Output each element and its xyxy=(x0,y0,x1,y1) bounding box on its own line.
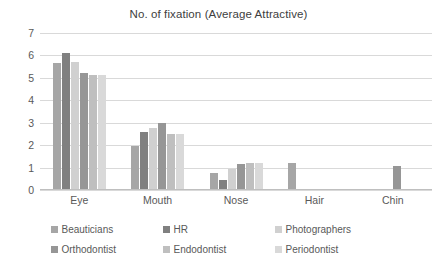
y-tick-label: 3 xyxy=(28,117,34,128)
bar-group xyxy=(197,33,275,190)
x-axis-category-labels: EyeMouthNoseHairChin xyxy=(40,194,432,206)
bar-group xyxy=(275,33,353,190)
plot-area xyxy=(40,33,432,190)
y-tick-label: 0 xyxy=(28,185,34,196)
legend-label: Photographers xyxy=(286,224,352,235)
legend-item[interactable]: Orthodontist xyxy=(51,244,163,255)
legend-label: Endodontist xyxy=(174,244,227,255)
legend-swatch-icon xyxy=(163,246,170,253)
bar[interactable] xyxy=(237,164,245,190)
chart-container: No. of fixation (Average Attractive) 012… xyxy=(0,0,437,277)
legend-item[interactable]: Photographers xyxy=(275,224,387,235)
legend-swatch-icon xyxy=(275,226,282,233)
bar[interactable] xyxy=(131,146,139,190)
bar[interactable] xyxy=(228,169,236,190)
bar-group xyxy=(354,33,432,190)
legend-row: BeauticiansHRPhotographers xyxy=(0,219,437,239)
y-tick-label: 2 xyxy=(28,140,34,151)
bar[interactable] xyxy=(149,128,157,190)
x-axis-line xyxy=(40,189,432,190)
legend-swatch-icon xyxy=(275,246,282,253)
bar[interactable] xyxy=(71,62,79,190)
y-axis-tick-labels: 01234567 xyxy=(0,33,34,190)
gridline xyxy=(40,190,432,191)
bar[interactable] xyxy=(167,134,175,190)
chart-legend: BeauticiansHRPhotographersOrthodontistEn… xyxy=(0,219,437,259)
legend-item[interactable]: Endodontist xyxy=(163,244,275,255)
bar[interactable] xyxy=(80,73,88,190)
legend-item[interactable]: HR xyxy=(163,224,275,235)
legend-label: Periodontist xyxy=(286,244,339,255)
bar[interactable] xyxy=(393,166,401,190)
bar-groups xyxy=(40,33,432,190)
bar[interactable] xyxy=(288,163,296,190)
bar[interactable] xyxy=(140,132,148,190)
bar[interactable] xyxy=(62,53,70,190)
y-tick-label: 5 xyxy=(28,73,34,84)
x-tick-label: Mouth xyxy=(118,194,196,206)
bar[interactable] xyxy=(158,123,166,190)
y-tick-label: 1 xyxy=(28,162,34,173)
legend-swatch-icon xyxy=(51,226,58,233)
x-tick-label: Eye xyxy=(40,194,118,206)
bar[interactable] xyxy=(176,134,184,190)
y-tick-label: 7 xyxy=(28,28,34,39)
x-tick-label: Chin xyxy=(354,194,432,206)
legend-row: OrthodontistEndodontistPeriodontist xyxy=(0,239,437,259)
chart-title: No. of fixation (Average Attractive) xyxy=(0,8,437,20)
legend-swatch-icon xyxy=(51,246,58,253)
bar[interactable] xyxy=(89,75,97,191)
bar[interactable] xyxy=(255,163,263,190)
legend-item[interactable]: Periodontist xyxy=(275,244,387,255)
y-tick-label: 4 xyxy=(28,95,34,106)
legend-item[interactable]: Beauticians xyxy=(51,224,163,235)
x-tick-label: Nose xyxy=(197,194,275,206)
legend-label: Beauticians xyxy=(62,224,114,235)
legend-label: HR xyxy=(174,224,188,235)
legend-label: Orthodontist xyxy=(62,244,116,255)
bar[interactable] xyxy=(98,75,106,191)
bar[interactable] xyxy=(210,173,218,190)
bar[interactable] xyxy=(246,163,254,190)
bar[interactable] xyxy=(53,63,61,190)
bar-group xyxy=(118,33,196,190)
x-tick-label: Hair xyxy=(275,194,353,206)
legend-swatch-icon xyxy=(163,226,170,233)
bar-group xyxy=(40,33,118,190)
y-tick-label: 6 xyxy=(28,50,34,61)
